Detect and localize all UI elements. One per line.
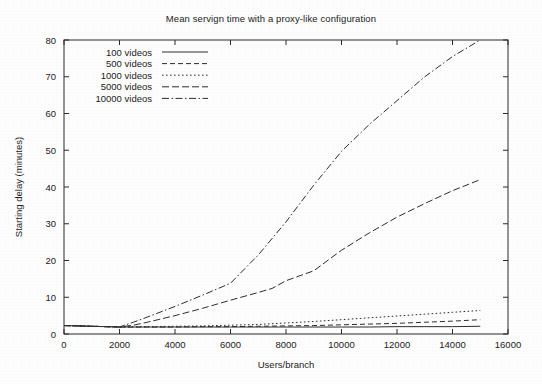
- y-tick-label: 60: [45, 108, 56, 119]
- legend-label-1: 500 videos: [106, 58, 152, 69]
- y-tick-label: 40: [45, 182, 56, 193]
- x-tick-label: 14000: [439, 339, 465, 350]
- y-tick-label: 50: [45, 145, 56, 156]
- x-tick-label: 4000: [164, 339, 185, 350]
- y-tick-label: 10: [45, 292, 56, 303]
- y-tick-label: 70: [45, 71, 56, 82]
- y-tick-label: 30: [45, 218, 56, 229]
- x-tick-label: 12000: [384, 339, 410, 350]
- x-tick-label: 0: [61, 339, 66, 350]
- x-tick-label: 2000: [109, 339, 130, 350]
- x-axis-title: Users/branch: [258, 359, 315, 370]
- line-chart-plot: 0200040006000800010000120001400016000 01…: [0, 0, 542, 384]
- legend-label-3: 5000 videos: [101, 81, 152, 92]
- y-axis-title: Starting delay (minutes): [13, 137, 24, 237]
- chart-figure: Mean servign time with a proxy-like conf…: [0, 0, 542, 384]
- series-line-1000-videos: [64, 310, 480, 327]
- chart-legend: 100 videos500 videos1000 videos5000 vide…: [95, 47, 208, 104]
- x-tick-label: 8000: [275, 339, 296, 350]
- legend-label-0: 100 videos: [106, 47, 152, 58]
- x-tick-label: 16000: [495, 339, 521, 350]
- legend-label-4: 10000 videos: [95, 93, 152, 104]
- y-tick-label: 0: [51, 329, 56, 340]
- legend-label-2: 1000 videos: [101, 70, 152, 81]
- series-line-5000-videos: [64, 180, 480, 327]
- x-tick-label: 10000: [328, 339, 354, 350]
- y-tick-label: 80: [45, 35, 56, 46]
- y-tick-label: 20: [45, 255, 56, 266]
- x-tick-label: 6000: [220, 339, 241, 350]
